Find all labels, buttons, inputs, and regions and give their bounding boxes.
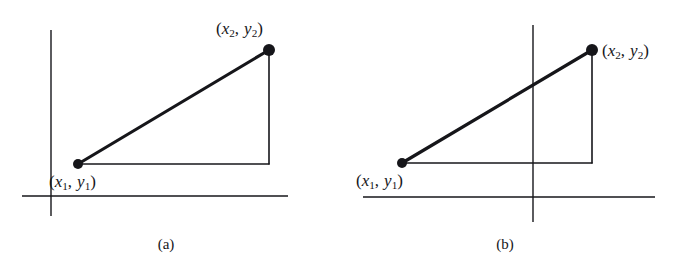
point-1-label: (x1,y1)	[356, 172, 403, 189]
y-variable: y	[384, 171, 392, 190]
comma: ,	[375, 171, 379, 190]
point-2-label: (x2,y2)	[216, 20, 263, 37]
panel-b-drawing	[345, 0, 690, 273]
point-2-label: (x2,y2)	[602, 42, 649, 59]
point-1-dot	[397, 158, 407, 168]
point-2-dot	[263, 44, 275, 56]
point-1-dot	[73, 159, 83, 169]
y-variable: y	[630, 41, 638, 60]
figure-container: (x2,y2) (x1,y1) (a) (x2,y2) (x1,	[0, 0, 690, 273]
close-paren: )	[643, 41, 649, 60]
line-segment	[402, 50, 592, 163]
panel-a: (x2,y2) (x1,y1) (a)	[0, 0, 345, 273]
comma: ,	[68, 172, 72, 191]
point-2-dot	[586, 44, 598, 56]
line-segment	[78, 50, 269, 164]
y-variable: y	[77, 172, 85, 191]
close-paren: )	[90, 172, 96, 191]
y-variable: y	[244, 19, 252, 38]
panel-a-caption: (a)	[126, 236, 206, 253]
comma: ,	[621, 41, 625, 60]
point-1-label: (x1,y1)	[49, 173, 96, 190]
panel-a-drawing	[0, 0, 345, 273]
close-paren: )	[257, 19, 263, 38]
panel-b: (x2,y2) (x1,y1) (b)	[345, 0, 690, 273]
close-paren: )	[397, 171, 403, 190]
panel-b-caption: (b)	[465, 236, 545, 253]
comma: ,	[235, 19, 239, 38]
